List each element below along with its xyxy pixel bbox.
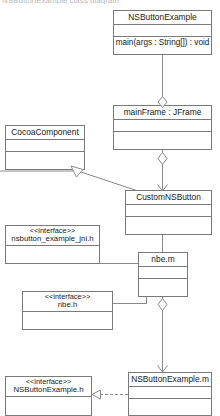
class-attributes-nsbuttonexample (114, 25, 211, 37)
class-attributes-customnsbutton (126, 205, 211, 217)
uml-class-diagram-canvas: NSButtonExample class diagram (0, 0, 220, 416)
class-operations-customnsbutton (126, 217, 211, 230)
class-box-nsbuttonexample-m[interactable]: NSButtonExample.m (128, 372, 212, 416)
class-attributes-nbe-h (23, 312, 112, 324)
class-box-mainframe[interactable]: mainFrame : JFrame (113, 105, 212, 150)
class-name-cocoacomponent: CocoaComponent (6, 126, 84, 140)
class-operations-nbe-m (139, 279, 187, 292)
class-operations-nsbuttonexample-m (129, 399, 211, 412)
arrowhead-to-nsbuttonexample-m (156, 362, 169, 373)
connector-customnsbutton-to-nbe-m (162, 234, 163, 252)
connector-nsbuttonexample-m-to-h (100, 394, 128, 395)
classname-nbe-h: nbe.h (58, 301, 78, 310)
connector-nbe-h-to-nbe-m (113, 303, 146, 304)
realization-triangle-nsbuttonexample-h (91, 389, 102, 400)
classname-nsbuttonexample-h: NSButtonExample.h (13, 386, 83, 395)
classname-nsbutton-example-jni-h: nsbutton_example_jni.h (11, 235, 93, 244)
class-name-nbe-h: <<interface>> nbe.h (23, 292, 112, 312)
aggregation-diamond-customnsbutton (157, 152, 168, 166)
class-box-nsbutton-example-jni-h[interactable]: <<interface>> nsbutton_example_jni.h (5, 225, 100, 264)
class-attributes-mainframe (114, 120, 211, 132)
class-box-nbe-h[interactable]: <<interface>> nbe.h (22, 291, 113, 330)
class-name-nsbuttonexample-h: <<interface>> NSButtonExample.h (6, 377, 91, 397)
aggregation-diamond-mainframe (157, 96, 168, 109)
class-name-nsbuttonexample: NSButtonExample (114, 11, 211, 25)
class-name-customnsbutton: CustomNSButton (126, 191, 211, 205)
class-attributes-nsbuttonexample-m (129, 387, 211, 399)
class-box-nbe-m[interactable]: nbe.m (138, 252, 188, 297)
generalization-triangle-cocoacomponent (70, 164, 85, 178)
class-attributes-nsbutton-example-jni-h (6, 246, 99, 258)
class-box-nsbuttonexample-h[interactable]: <<interface>> NSButtonExample.h (5, 376, 92, 416)
class-attributes-nsbuttonexample-h (6, 397, 91, 409)
class-attributes-nbe-m (139, 267, 187, 279)
class-name-nsbuttonexample-m: NSButtonExample.m (129, 373, 211, 387)
aggregation-diamond-nbe-m (157, 298, 168, 312)
class-box-customnsbutton[interactable]: CustomNSButton (125, 190, 212, 235)
class-name-nbe-m: nbe.m (139, 253, 187, 267)
class-attributes-cocoacomponent (6, 140, 84, 152)
arrowhead-to-customnsbutton (156, 182, 169, 192)
class-box-nsbuttonexample[interactable]: NSButtonExample main(args : String[]) : … (113, 10, 212, 55)
class-operations-mainframe (114, 132, 211, 145)
diagram-top-caption: NSButtonExample class diagram (2, 0, 152, 4)
class-operations-nsbuttonexample: main(args : String[]) : void (114, 37, 211, 50)
class-name-nsbutton-example-jni-h: <<interface>> nsbutton_example_jni.h (6, 226, 99, 246)
